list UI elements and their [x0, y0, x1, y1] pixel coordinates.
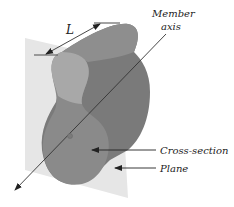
member-axis-label-line2: axis — [161, 21, 181, 32]
plane-label: Plane — [159, 163, 188, 174]
cross-section-label: Cross-section — [160, 145, 228, 156]
length-label: L — [65, 23, 74, 37]
member-axis-label-line1: Member — [151, 8, 196, 19]
member-cross-section-diagram: L Member axis Cross-section Plane — [0, 0, 234, 207]
centroid-dot — [68, 134, 73, 139]
